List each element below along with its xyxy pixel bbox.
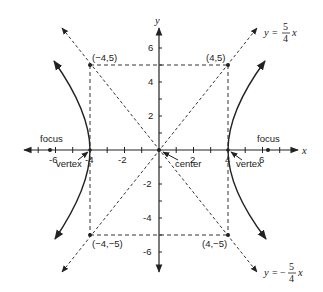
y-axis-label: y bbox=[154, 15, 160, 26]
svg-text:=: = bbox=[272, 267, 278, 278]
svg-text:4: 4 bbox=[289, 273, 294, 284]
x-tick-label: -2 bbox=[118, 154, 126, 165]
hyperbola-diagram: y x -6 -2 2 6 -4 4 6 4 2 -2 -4 -6 (−4,5)… bbox=[0, 0, 323, 292]
focus-label-right: focus bbox=[257, 133, 280, 144]
y-tick-label: -4 bbox=[143, 212, 151, 223]
y-tick-label: -2 bbox=[143, 178, 151, 189]
x-axis-label: x bbox=[301, 145, 307, 156]
svg-text:4: 4 bbox=[283, 33, 288, 44]
point-top-left bbox=[88, 63, 92, 67]
svg-text:−: − bbox=[280, 267, 286, 278]
point-label-top-right: (4,5) bbox=[206, 52, 226, 63]
svg-text:x: x bbox=[297, 267, 303, 278]
point-label-bottom-right: (4,−5) bbox=[202, 238, 227, 249]
svg-text:y: y bbox=[263, 27, 269, 38]
point-bottom-right bbox=[226, 233, 230, 237]
focus-right-point bbox=[266, 148, 270, 152]
vertex-right-point bbox=[226, 148, 230, 152]
svg-text:5: 5 bbox=[289, 261, 294, 272]
y-tick-label: 6 bbox=[148, 42, 153, 53]
svg-text:5: 5 bbox=[283, 21, 288, 32]
asymptote-label-positive: y = 5 4 x bbox=[263, 21, 297, 44]
pointer-arrows bbox=[78, 152, 242, 160]
x-tick-label: -4 bbox=[85, 154, 93, 165]
center-pointer bbox=[163, 152, 178, 160]
svg-text:x: x bbox=[291, 27, 297, 38]
point-bottom-left bbox=[88, 233, 92, 237]
focus-left-point bbox=[48, 148, 52, 152]
focus-label-left: focus bbox=[40, 133, 63, 144]
vertex-label-right: vertex bbox=[236, 158, 262, 169]
svg-text:y: y bbox=[263, 267, 269, 278]
y-tick-label: 4 bbox=[148, 76, 153, 87]
y-tick-label: -6 bbox=[143, 246, 151, 257]
y-tick-label: 2 bbox=[148, 110, 153, 121]
center-point bbox=[157, 148, 161, 152]
vertex-left-point bbox=[88, 148, 92, 152]
point-label-top-left: (−4,5) bbox=[92, 52, 117, 63]
point-label-bottom-left: (−4,−5) bbox=[92, 238, 123, 249]
center-label: center bbox=[175, 158, 201, 169]
svg-text:=: = bbox=[272, 27, 278, 38]
x-tick-label: 4 bbox=[225, 154, 230, 165]
asymptote-label-negative: y = − 5 4 x bbox=[263, 261, 303, 284]
point-top-right bbox=[226, 63, 230, 67]
